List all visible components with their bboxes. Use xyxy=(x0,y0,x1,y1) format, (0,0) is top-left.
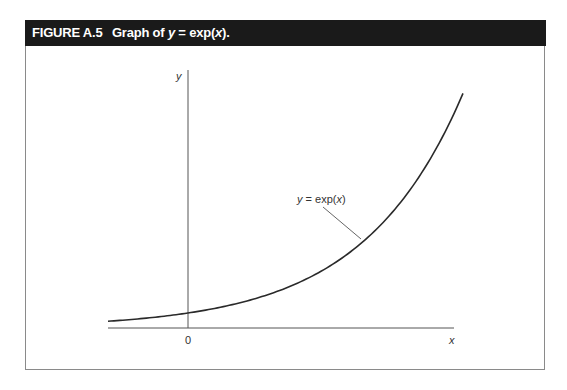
annotation-eq: = exp( xyxy=(303,193,337,205)
annotation-leader-line xyxy=(323,207,361,239)
plot-area: y x 0 y = exp(x) xyxy=(0,0,567,390)
y-axis-label: y xyxy=(175,70,183,82)
exp-curve xyxy=(108,93,463,321)
curve-annotation: y = exp(x) xyxy=(296,193,346,205)
origin-tick-label: 0 xyxy=(185,334,191,346)
annotation-close: ) xyxy=(342,193,346,205)
x-axis-label: x xyxy=(448,334,455,346)
